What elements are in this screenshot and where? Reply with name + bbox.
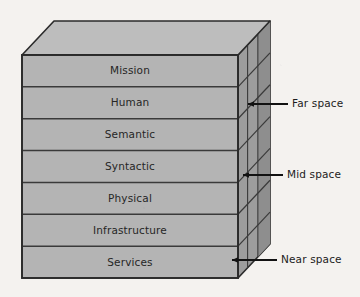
layer-label-services: Services <box>107 256 152 268</box>
block-top-face <box>22 21 270 55</box>
annotation-label-far-space: Far space <box>292 97 343 109</box>
layer-label-syntactic: Syntactic <box>105 160 155 172</box>
layer-label-semantic: Semantic <box>105 128 156 140</box>
layer-label-infrastructure: Infrastructure <box>93 224 167 236</box>
layer-label-physical: Physical <box>108 192 152 204</box>
annotation-label-near-space: Near space <box>281 253 342 265</box>
layered-stack-diagram: MissionHumanSemanticSyntacticPhysicalInf… <box>0 0 360 297</box>
layer-label-mission: Mission <box>110 64 150 76</box>
diagram-root: MissionHumanSemanticSyntacticPhysicalInf… <box>0 0 360 297</box>
annotation-label-mid-space: Mid space <box>287 168 341 180</box>
layer-label-human: Human <box>111 96 150 108</box>
block-side-face <box>238 21 270 278</box>
